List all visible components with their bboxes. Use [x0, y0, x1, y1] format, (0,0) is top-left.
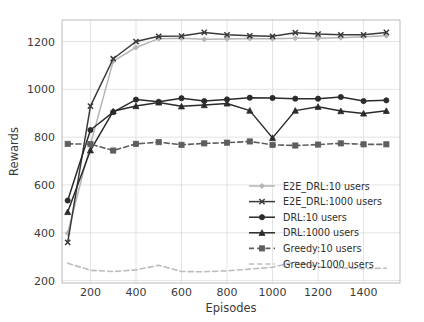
y-axis-title: Rewards: [7, 127, 21, 176]
legend-label: DRL:1000 users: [283, 227, 359, 238]
data-point-marker: [247, 139, 252, 144]
data-point-marker: [65, 198, 70, 203]
data-point-marker: [315, 142, 320, 147]
data-point-marker: [247, 95, 252, 100]
y-tick-label-200: 200: [34, 275, 55, 288]
x-tick-label-600: 600: [171, 286, 192, 299]
data-point-marker: [111, 148, 116, 153]
y-tick-label-800: 800: [34, 131, 55, 144]
data-point-marker: [259, 246, 264, 251]
legend-label: DRL:10 users: [283, 212, 347, 223]
data-point-marker: [156, 140, 161, 145]
data-point-marker: [202, 141, 207, 146]
data-point-marker: [133, 97, 138, 102]
y-tick-label-600: 600: [34, 179, 55, 192]
x-tick-label-1200: 1200: [304, 286, 332, 299]
rewards-line-chart: 2004006008001000120020040060080010001200…: [0, 0, 424, 322]
data-point-marker: [293, 96, 298, 101]
y-tick-label-1200: 1200: [27, 36, 55, 49]
x-tick-label-400: 400: [125, 286, 146, 299]
data-point-marker: [338, 141, 343, 146]
data-point-marker: [270, 95, 275, 100]
data-point-marker: [179, 96, 184, 101]
legend-label: E2E_DRL:10 users: [283, 181, 370, 193]
data-point-marker: [315, 96, 320, 101]
data-point-marker: [361, 98, 366, 103]
y-tick-label-1000: 1000: [27, 83, 55, 96]
legend-label: Greedy:1000 users: [283, 259, 374, 270]
chart-figure: 2004006008001000120020040060080010001200…: [0, 0, 424, 322]
data-point-marker: [338, 94, 343, 99]
x-axis-title: Episodes: [205, 301, 256, 315]
legend-label: E2E_DRL:1000 users: [283, 196, 382, 208]
y-tick-label-400: 400: [34, 227, 55, 240]
data-point-marker: [88, 141, 93, 146]
data-point-marker: [384, 98, 389, 103]
x-tick-label-200: 200: [80, 286, 101, 299]
data-point-marker: [293, 143, 298, 148]
x-tick-label-1400: 1400: [350, 286, 378, 299]
x-tick-label-800: 800: [217, 286, 238, 299]
data-point-marker: [88, 127, 93, 132]
data-point-marker: [179, 142, 184, 147]
x-tick-label-1000: 1000: [259, 286, 287, 299]
data-point-marker: [65, 141, 70, 146]
data-point-marker: [259, 215, 264, 220]
legend-label: Greedy:10 users: [283, 243, 361, 254]
data-point-marker: [361, 142, 366, 147]
data-point-marker: [224, 140, 229, 145]
data-point-marker: [133, 141, 138, 146]
data-point-marker: [270, 142, 275, 147]
data-point-marker: [384, 142, 389, 147]
